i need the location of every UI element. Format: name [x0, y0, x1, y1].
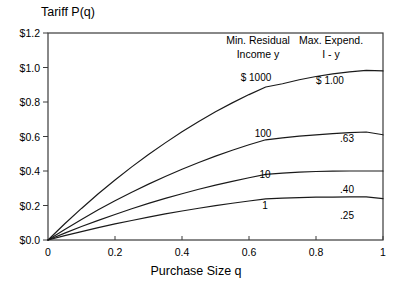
legend-header-left-line1: Min. Residual — [226, 35, 290, 46]
curve-series-3 — [48, 197, 383, 240]
legend-header-left-line2: Income y — [237, 49, 280, 60]
data-curves — [48, 70, 383, 240]
y-tick-label: $0.0 — [0, 235, 40, 246]
y-tick-label: $0.8 — [0, 97, 40, 108]
curve-label-residual-100: 100 — [255, 129, 272, 139]
curve-series-0 — [48, 70, 383, 240]
curve-series-1 — [48, 132, 383, 240]
y-tick-label: $1.0 — [0, 62, 40, 73]
chart-figure: Tariff P(q) Purchase Size q Min. Residua… — [0, 0, 393, 288]
x-tick-label: 0.4 — [175, 247, 190, 258]
plot-frame — [48, 33, 383, 240]
curve-label-expend-10: .40 — [340, 185, 354, 195]
x-axis-ticks — [115, 236, 383, 240]
y-axis-title: Tariff P(q) — [41, 6, 95, 19]
curve-label-expend-1: .25 — [340, 211, 354, 221]
x-axis-title: Purchase Size q — [150, 265, 241, 278]
x-tick-label: 0.2 — [108, 247, 123, 258]
y-tick-label: $0.2 — [0, 200, 40, 211]
y-axis-ticks — [43, 33, 48, 240]
x-tick-label: 0.6 — [242, 247, 257, 258]
x-tick-label: 0.8 — [309, 247, 324, 258]
curve-label-expend-100: .63 — [340, 134, 354, 144]
y-tick-label: $0.6 — [0, 131, 40, 142]
legend-header-right-line2: I - y — [322, 49, 340, 60]
curve-label-residual-1: 1 — [262, 201, 268, 211]
x-tick-label: 1 — [380, 247, 386, 258]
y-tick-label: $1.2 — [0, 28, 40, 39]
y-tick-label: $0.4 — [0, 166, 40, 177]
curve-label-residual-1000: $ 1000 — [241, 73, 272, 83]
legend-header-right-line1: Max. Expend. — [299, 35, 363, 46]
curve-label-expend-1000: $ 1.00 — [316, 76, 344, 86]
x-tick-label: 0 — [45, 247, 51, 258]
curve-label-residual-10: 10 — [259, 170, 270, 180]
